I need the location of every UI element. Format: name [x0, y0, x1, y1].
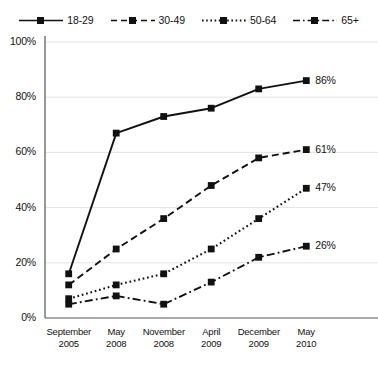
series-end-label-65-plus: 26%: [315, 239, 335, 251]
data-point-marker: [113, 293, 120, 300]
data-point-marker: [65, 270, 72, 277]
data-point-marker: [160, 113, 167, 120]
data-point-marker: [65, 301, 72, 308]
data-point-marker: [113, 282, 120, 289]
data-point-marker: [160, 301, 167, 308]
legend-item-18-29[interactable]: 18-29: [19, 15, 93, 26]
data-point-marker: [255, 215, 262, 222]
x-axis-tick-label-line: May: [270, 326, 342, 338]
y-axis-tick-label: 40%: [0, 201, 36, 213]
legend-label-18-29: 18-29: [67, 15, 93, 26]
chart-legend: 18-29 30-49 50-64: [0, 8, 378, 32]
data-point-marker: [255, 86, 262, 93]
data-point-marker: [160, 215, 167, 222]
series-line-50-64: [69, 188, 306, 298]
data-point-marker: [208, 182, 215, 189]
legend-label-65-plus: 65+: [341, 15, 359, 26]
plot-area: 0%20%40%60%80%100% September2005May2008N…: [0, 32, 378, 365]
data-point-marker: [303, 146, 310, 153]
legend-item-50-64[interactable]: 50-64: [202, 15, 276, 26]
data-point-marker: [113, 246, 120, 253]
legend-label-50-64: 50-64: [250, 15, 276, 26]
data-point-marker: [208, 246, 215, 253]
data-point-marker: [160, 270, 167, 277]
series-end-label-50-64: 47%: [315, 181, 335, 193]
y-axis-tick-label: 60%: [0, 145, 36, 157]
y-axis-tick-label: 0%: [0, 311, 36, 323]
series-line-65-plus: [69, 246, 306, 304]
data-point-marker: [303, 185, 310, 192]
data-point-marker: [255, 155, 262, 162]
y-axis-tick-label: 100%: [0, 35, 36, 47]
legend-line-sample-dash-dot-icon: [293, 15, 337, 26]
data-point-marker: [303, 77, 310, 84]
chart-container: 18-29 30-49 50-64: [0, 0, 378, 365]
data-point-marker: [255, 254, 262, 261]
data-point-marker: [113, 130, 120, 137]
x-axis-tick-label-line: 2010: [270, 338, 342, 350]
legend-line-sample-solid-icon: [19, 15, 63, 26]
data-point-marker: [303, 243, 310, 250]
series-end-label-30-49: 61%: [315, 143, 335, 155]
data-point-marker: [208, 105, 215, 112]
x-axis-tick-label: May2010: [270, 326, 342, 349]
series-end-label-18-29: 86%: [315, 74, 335, 86]
y-axis-tick-label: 80%: [0, 90, 36, 102]
series-line-18-29: [69, 81, 306, 274]
legend-item-30-49[interactable]: 30-49: [111, 15, 185, 26]
legend-line-sample-dotted-icon: [202, 15, 246, 26]
y-axis-tick-label: 20%: [0, 256, 36, 268]
legend-item-65-plus[interactable]: 65+: [293, 15, 359, 26]
data-point-marker: [65, 282, 72, 289]
data-point-marker: [208, 279, 215, 286]
legend-line-sample-dashed-icon: [111, 15, 155, 26]
legend-label-30-49: 30-49: [159, 15, 185, 26]
